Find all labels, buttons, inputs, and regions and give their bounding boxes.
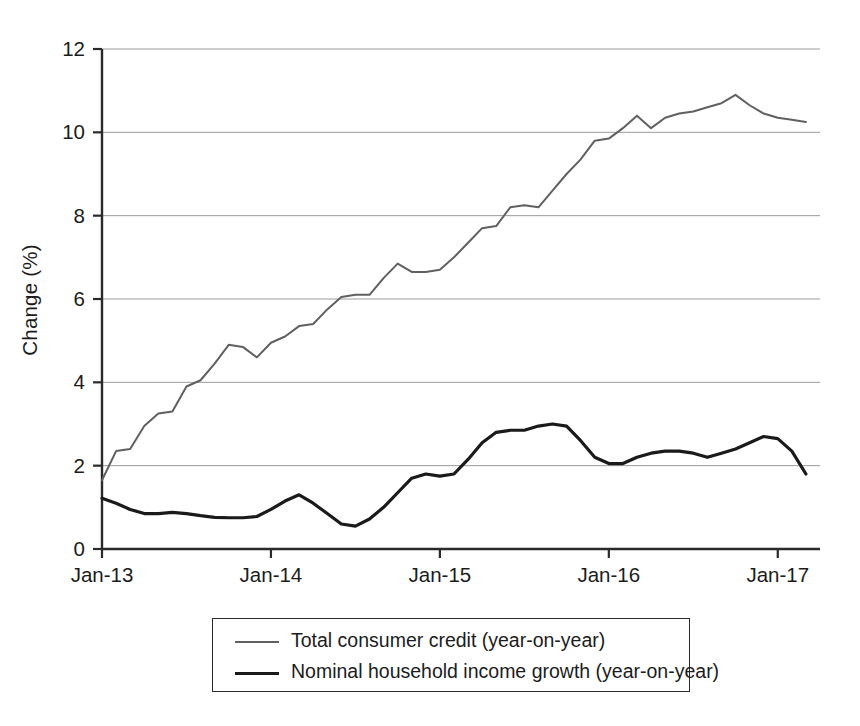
svg-text:4: 4 bbox=[74, 370, 85, 393]
y-axis bbox=[93, 49, 102, 549]
svg-text:Jan-14: Jan-14 bbox=[240, 563, 303, 586]
chart-legend: Total consumer credit (year-on-year) Nom… bbox=[212, 618, 690, 692]
svg-text:Jan-13: Jan-13 bbox=[71, 563, 134, 586]
series-line-1 bbox=[102, 424, 806, 526]
svg-text:12: 12 bbox=[62, 37, 85, 60]
svg-text:Jan-16: Jan-16 bbox=[577, 563, 640, 586]
legend-label-credit: Total consumer credit (year-on-year) bbox=[291, 629, 605, 652]
gridlines bbox=[102, 49, 820, 466]
svg-text:Jan-17: Jan-17 bbox=[746, 563, 809, 586]
series-line-0 bbox=[102, 95, 806, 480]
svg-text:0: 0 bbox=[74, 537, 85, 560]
chart-figure: 024681012 Jan-13Jan-14Jan-15Jan-16Jan-17… bbox=[0, 0, 860, 726]
x-axis bbox=[102, 549, 820, 558]
legend-label-income: Nominal household income growth (year-on… bbox=[291, 660, 719, 683]
legend-line-swatch-income bbox=[235, 666, 279, 678]
y-tick-labels: 024681012 bbox=[62, 37, 85, 560]
svg-text:Jan-15: Jan-15 bbox=[409, 563, 472, 586]
svg-text:8: 8 bbox=[74, 204, 85, 227]
legend-item-total-consumer-credit[interactable]: Total consumer credit (year-on-year) bbox=[213, 625, 689, 656]
legend-item-nominal-household-income[interactable]: Nominal household income growth (year-on… bbox=[213, 656, 689, 687]
svg-text:6: 6 bbox=[74, 287, 85, 310]
svg-text:2: 2 bbox=[74, 454, 85, 477]
data-series-group bbox=[102, 95, 806, 526]
x-tick-labels: Jan-13Jan-14Jan-15Jan-16Jan-17 bbox=[71, 563, 809, 586]
legend-line-swatch-credit bbox=[235, 635, 279, 647]
svg-text:10: 10 bbox=[62, 120, 85, 143]
